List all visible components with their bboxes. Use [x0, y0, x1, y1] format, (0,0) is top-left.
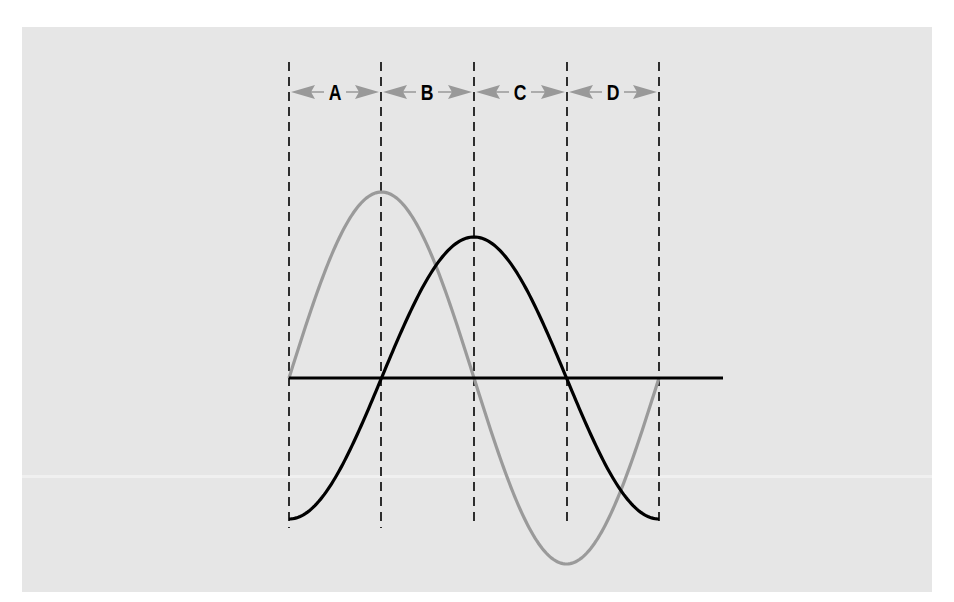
interval-label-a: A [329, 80, 342, 104]
interval-label-b: B [421, 80, 434, 104]
interval-label-c: C [514, 80, 527, 104]
waveform-diagram: A B C D [0, 0, 954, 602]
interval-label-d: D [607, 80, 620, 104]
